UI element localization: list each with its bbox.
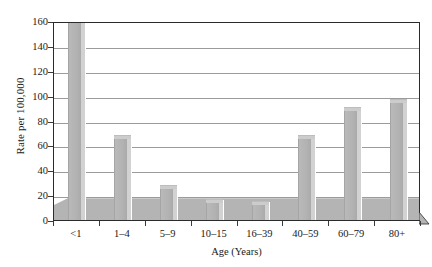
plot-area — [53, 22, 420, 221]
y-axis-tick-label: 20 — [22, 191, 48, 201]
bar-front-face — [160, 189, 174, 220]
y-axis-tick-mark — [48, 122, 53, 123]
bar-side-face — [173, 186, 178, 220]
y-axis-tick-mark — [48, 22, 53, 23]
x-axis-title: Age (Years) — [53, 246, 420, 257]
bar-side-face — [127, 136, 132, 220]
bar-side-face — [219, 200, 224, 220]
y-axis-tick-labels: 020406080100120140160 — [22, 0, 48, 267]
x-axis-tick-label: 10–15 — [191, 228, 237, 240]
x-axis-tick-label: 1–4 — [99, 228, 145, 240]
x-axis-tick-labels: <11–45–910–1516–3940–5960–7980+ — [53, 228, 420, 244]
bars — [54, 23, 419, 220]
y-axis-tick-label: 60 — [22, 141, 48, 151]
bar — [344, 111, 361, 220]
x-axis-tick-mark — [99, 221, 100, 226]
bar — [298, 139, 315, 220]
y-axis-tick-label: 100 — [22, 92, 48, 102]
bar-front-face — [68, 22, 82, 220]
bar-top-face — [390, 99, 407, 103]
y-axis-tick-label: 140 — [22, 42, 48, 52]
bar-top-face — [206, 199, 223, 203]
bar-side-face — [357, 108, 362, 220]
bar-side-face — [403, 100, 408, 220]
x-axis-tick-mark — [145, 221, 146, 226]
x-axis-tick-mark — [282, 221, 283, 226]
bar — [206, 203, 223, 220]
x-axis-tick-label: <1 — [53, 228, 99, 240]
bar-side-face — [311, 136, 316, 220]
bar — [252, 205, 269, 220]
bar — [160, 189, 177, 220]
bar — [68, 22, 85, 220]
bar-top-face — [160, 185, 177, 189]
bar-top-face — [298, 135, 315, 139]
x-axis-tick-mark — [328, 221, 329, 226]
x-axis-tick-mark — [53, 221, 54, 226]
bar-front-face — [344, 111, 358, 220]
bar-chart: Rate per 100,000 020406080100120140160 <… — [0, 0, 432, 267]
x-axis-tick-label: 80+ — [374, 228, 420, 240]
y-axis-tick-mark — [48, 72, 53, 73]
y-axis-tick-mark — [48, 196, 53, 197]
y-axis-tick-label: 160 — [22, 17, 48, 27]
bar-top-face — [344, 107, 361, 111]
x-axis-tick-label: 40–59 — [282, 228, 328, 240]
y-axis-tick-mark — [48, 171, 53, 172]
y-axis-tick-label: 120 — [22, 67, 48, 77]
y-axis-tick-label: 0 — [22, 216, 48, 226]
y-axis-tick-mark — [48, 146, 53, 147]
y-axis-tick-mark — [48, 97, 53, 98]
bar — [114, 139, 131, 220]
bar-top-face — [252, 201, 269, 205]
x-axis-tick-mark — [374, 221, 375, 226]
bar-top-face — [114, 135, 131, 139]
bar — [390, 103, 407, 220]
bar-front-face — [298, 139, 312, 220]
bar-front-face — [206, 203, 220, 220]
x-axis-tick-mark — [420, 221, 421, 226]
y-axis-tick-label: 80 — [22, 117, 48, 127]
bar-front-face — [390, 103, 404, 220]
x-axis-tick-mark — [237, 221, 238, 226]
x-axis-tick-label: 5–9 — [145, 228, 191, 240]
bar-side-face — [81, 22, 86, 220]
bar-front-face — [252, 205, 266, 220]
y-axis-tick-mark — [48, 47, 53, 48]
x-axis-tick-label: 16–39 — [237, 228, 283, 240]
bar-front-face — [114, 139, 128, 220]
y-axis-tick-label: 40 — [22, 166, 48, 176]
x-axis-tick-label: 60–79 — [328, 228, 374, 240]
x-axis-tick-mark — [191, 221, 192, 226]
